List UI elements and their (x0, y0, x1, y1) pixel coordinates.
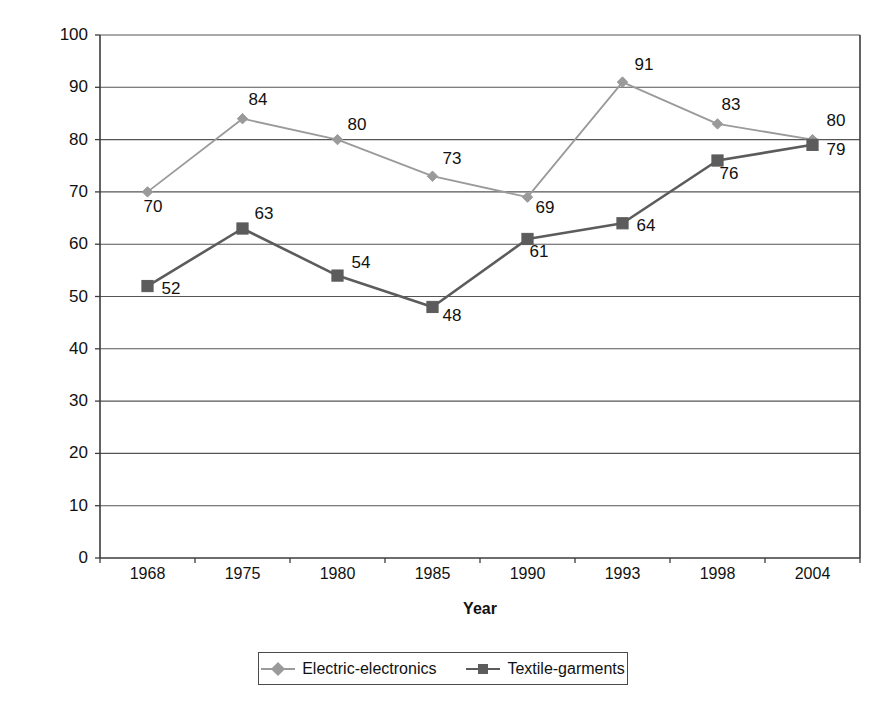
data-point-label: 61 (530, 243, 549, 260)
x-axis-tick-label: 2004 (768, 566, 858, 582)
y-axis-tick-label: 40 (42, 340, 88, 357)
y-axis-tick-label: 20 (42, 444, 88, 461)
legend-label-textile-garments: Textile-garments (507, 660, 624, 678)
y-axis-tick-label: 50 (42, 288, 88, 305)
x-axis-tick-label: 1985 (388, 566, 478, 582)
chart-figure: Percent (%) Year 1009080706050403020100 … (0, 0, 882, 701)
data-point-label: 69 (536, 199, 555, 216)
x-axis-tick-label: 1993 (578, 566, 668, 582)
chart-legend: Electric-electronics Textile-garments (258, 652, 628, 685)
data-point-label: 80 (348, 116, 367, 133)
y-axis-tick-label: 0 (42, 549, 88, 566)
y-axis-tick-label: 70 (42, 183, 88, 200)
x-axis-tick-label: 1975 (198, 566, 288, 582)
x-axis-tick-label: 1998 (673, 566, 763, 582)
data-point-label: 84 (249, 91, 268, 108)
legend-marker-square-icon (466, 662, 500, 676)
data-point-marker (712, 119, 722, 129)
data-series-group (142, 77, 818, 313)
x-axis-tick-label: 1980 (293, 566, 383, 582)
data-point-marker (617, 218, 628, 229)
data-point-label: 91 (635, 56, 654, 73)
legend-item-textile-garments: Textile-garments (466, 660, 624, 678)
legend-label-electric-electronics: Electric-electronics (302, 660, 436, 678)
chart-plot-area (0, 0, 882, 701)
data-point-label: 48 (443, 307, 462, 324)
y-axis-tick-label: 80 (42, 131, 88, 148)
data-point-label: 80 (827, 112, 846, 129)
data-point-marker (142, 280, 153, 291)
data-point-marker (807, 139, 818, 150)
data-point-label: 73 (443, 150, 462, 167)
y-axis-tick-label: 10 (42, 497, 88, 514)
axis-lines (95, 35, 860, 563)
legend-marker-diamond-icon (261, 662, 295, 676)
data-point-label: 70 (144, 198, 163, 215)
x-axis-title: Year (100, 600, 860, 618)
data-point-marker (332, 270, 343, 281)
data-point-label: 79 (827, 141, 846, 158)
data-point-label: 54 (352, 254, 371, 271)
data-point-label: 64 (637, 217, 656, 234)
data-point-label: 52 (162, 280, 181, 297)
y-axis-tick-label: 90 (42, 78, 88, 95)
y-axis-tick-label: 30 (42, 392, 88, 409)
data-point-marker (332, 134, 342, 144)
x-axis-tick-label: 1990 (483, 566, 573, 582)
y-axis-tick-label: 100 (42, 26, 88, 43)
data-point-label: 83 (722, 96, 741, 113)
x-axis-tick-label: 1968 (103, 566, 193, 582)
grid-lines (100, 35, 860, 506)
y-axis-tick-label: 60 (42, 235, 88, 252)
data-point-marker (427, 171, 437, 181)
data-point-marker (237, 223, 248, 234)
data-point-label: 63 (255, 205, 274, 222)
data-point-marker (427, 301, 438, 312)
data-point-label: 76 (720, 165, 739, 182)
legend-item-electric-electronics: Electric-electronics (261, 660, 436, 678)
